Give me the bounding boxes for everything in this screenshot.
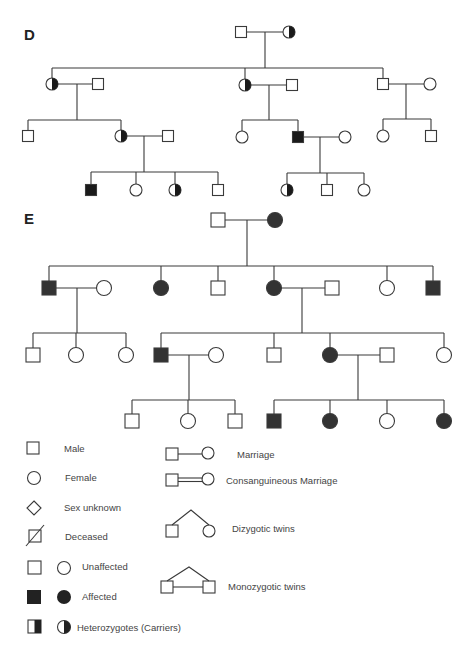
legend-affected-square-icon bbox=[27, 590, 41, 604]
legend-deceased-icon bbox=[26, 525, 44, 546]
legend-label-monozygotic-twins: Monozygotic twins bbox=[228, 581, 306, 592]
male-unaffected-icon bbox=[322, 185, 333, 196]
pedigree-e: E bbox=[24, 210, 452, 429]
legend-monozygotic-twins-icon bbox=[161, 567, 215, 593]
male-unaffected-icon bbox=[426, 131, 437, 142]
male-affected-icon bbox=[267, 414, 281, 428]
legend-label-carrier: Heterozygotes (Carriers) bbox=[77, 622, 181, 633]
male-unaffected-icon bbox=[228, 414, 242, 428]
legend-label-unaffected: Unaffected bbox=[82, 561, 128, 572]
female-unaffected-icon bbox=[209, 348, 224, 363]
female-unaffected-icon bbox=[119, 348, 134, 363]
legend-label-female: Female bbox=[65, 472, 97, 483]
female-affected-icon bbox=[154, 281, 169, 296]
legend-marriage-icon bbox=[166, 447, 214, 460]
female-unaffected-icon bbox=[130, 184, 142, 196]
male-unaffected-icon bbox=[93, 79, 104, 90]
legend-sex-unknown-diamond-icon bbox=[27, 501, 41, 515]
legend-labels: Male Female Sex unknown Deceased Unaffec… bbox=[64, 443, 337, 633]
female-carrier-icon bbox=[283, 26, 295, 38]
legend-unaffected-circle-icon bbox=[58, 562, 71, 575]
legend-affected-circle-icon bbox=[57, 590, 71, 604]
male-unaffected-icon bbox=[267, 348, 281, 362]
legend-label-marriage: Marriage bbox=[237, 449, 275, 460]
male-unaffected-icon bbox=[163, 131, 174, 142]
female-unaffected-icon bbox=[339, 131, 351, 143]
legend-carrier-square-icon bbox=[28, 620, 41, 633]
pedigree-e-individuals bbox=[26, 213, 452, 429]
female-carrier-icon bbox=[281, 184, 293, 196]
male-unaffected-icon bbox=[236, 27, 247, 38]
male-unaffected-icon bbox=[125, 414, 139, 428]
legend-label-consanguineous-marriage: Consanguineous Marriage bbox=[226, 475, 337, 486]
legend-carrier-circle-icon bbox=[58, 621, 71, 634]
female-unaffected-icon bbox=[377, 130, 389, 142]
legend-label-deceased: Deceased bbox=[65, 531, 108, 542]
legend-label-male: Male bbox=[64, 443, 85, 454]
legend-label-sex-unknown: Sex unknown bbox=[64, 502, 121, 513]
male-affected-icon bbox=[426, 281, 440, 295]
female-affected-icon bbox=[323, 414, 338, 429]
female-affected-icon bbox=[268, 213, 283, 228]
legend-label-affected: Affected bbox=[82, 591, 117, 602]
male-affected-icon bbox=[293, 132, 304, 143]
female-unaffected-icon bbox=[437, 348, 452, 363]
pedigree-d-lines bbox=[28, 32, 431, 185]
legend-label-dizygotic-twins: Dizygotic twins bbox=[232, 523, 295, 534]
female-unaffected-icon bbox=[97, 281, 112, 296]
female-unaffected-icon bbox=[380, 281, 395, 296]
male-affected-icon bbox=[42, 281, 56, 295]
male-unaffected-icon bbox=[380, 348, 394, 362]
female-unaffected-icon bbox=[358, 184, 370, 196]
male-unaffected-icon bbox=[26, 348, 40, 362]
male-unaffected-icon bbox=[325, 281, 339, 295]
legend-consanguineous-marriage-icon bbox=[166, 473, 214, 486]
male-unaffected-icon bbox=[23, 131, 34, 142]
pedigree-d-individuals bbox=[23, 26, 437, 196]
section-label-d: D bbox=[24, 26, 35, 43]
female-affected-icon bbox=[267, 281, 282, 296]
female-unaffected-icon bbox=[236, 131, 248, 143]
male-affected-icon bbox=[86, 185, 97, 196]
female-carrier-icon bbox=[46, 78, 58, 90]
pedigree-figure: D E bbox=[0, 0, 469, 654]
male-unaffected-icon bbox=[211, 213, 225, 227]
legend: Male Female Sex unknown Deceased Unaffec… bbox=[26, 442, 337, 634]
female-unaffected-icon bbox=[424, 78, 436, 90]
pedigree-e-lines bbox=[33, 220, 444, 414]
pedigree-d: D bbox=[23, 26, 437, 196]
female-carrier-icon bbox=[115, 130, 127, 142]
male-unaffected-icon bbox=[378, 79, 389, 90]
female-affected-icon bbox=[437, 414, 452, 429]
male-unaffected-icon bbox=[287, 80, 298, 91]
female-unaffected-icon bbox=[380, 414, 395, 429]
female-unaffected-icon bbox=[181, 414, 196, 429]
female-carrier-icon bbox=[169, 184, 181, 196]
legend-dizygotic-twins-icon bbox=[166, 510, 215, 537]
male-unaffected-icon bbox=[213, 185, 224, 196]
section-label-e: E bbox=[24, 210, 34, 227]
legend-male-square-icon bbox=[27, 442, 39, 454]
male-affected-icon bbox=[154, 348, 168, 362]
female-unaffected-icon bbox=[69, 348, 84, 363]
legend-unaffected-square-icon bbox=[28, 561, 41, 574]
female-affected-icon bbox=[323, 348, 338, 363]
female-carrier-icon bbox=[239, 79, 251, 91]
male-unaffected-icon bbox=[211, 281, 225, 295]
legend-female-circle-icon bbox=[28, 472, 41, 485]
